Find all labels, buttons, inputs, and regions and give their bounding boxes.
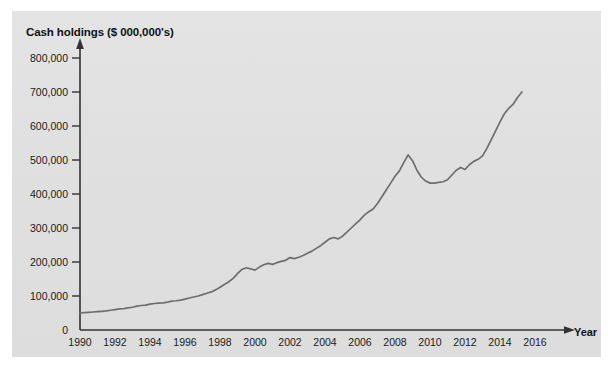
y-tick-label: 700,000 — [14, 86, 68, 98]
y-axis-ticks — [72, 58, 80, 296]
y-tick-label: 200,000 — [14, 256, 68, 268]
x-tick-label: 2000 — [243, 336, 266, 348]
y-tick-label: 300,000 — [14, 222, 68, 234]
x-tick-label: 1996 — [173, 336, 196, 348]
x-tick-label: 1990 — [68, 336, 91, 348]
x-axis-title: Year — [574, 326, 597, 338]
x-tick-label: 2016 — [523, 336, 546, 348]
y-axis-arrow — [76, 38, 84, 49]
x-tick-label: 2004 — [313, 336, 336, 348]
cash-holdings-line — [80, 92, 522, 313]
y-tick-label: 400,000 — [14, 188, 68, 200]
y-tick-label: 600,000 — [14, 120, 68, 132]
x-tick-label: 2010 — [418, 336, 441, 348]
x-tick-label: 2002 — [278, 336, 301, 348]
x-tick-label: 2006 — [348, 336, 371, 348]
chart-plot-area — [0, 0, 613, 368]
y-tick-label: 800,000 — [14, 52, 68, 64]
y-tick-label: 0 — [14, 324, 68, 336]
x-tick-label: 2014 — [488, 336, 511, 348]
y-tick-label: 500,000 — [14, 154, 68, 166]
chart-figure: Cash holdings ($ 000,000's) Year 800,000… — [0, 0, 613, 368]
x-tick-label: 2012 — [453, 336, 476, 348]
x-tick-label: 1992 — [103, 336, 126, 348]
y-tick-label: 100,000 — [14, 290, 68, 302]
x-tick-label: 1998 — [208, 336, 231, 348]
y-axis-title: Cash holdings ($ 000,000's) — [26, 26, 174, 38]
x-tick-label: 2008 — [383, 336, 406, 348]
x-tick-label: 1994 — [138, 336, 161, 348]
